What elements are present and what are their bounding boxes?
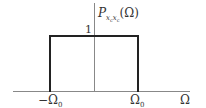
pulse-left-edge — [49, 35, 51, 92]
x-tick-neg-omega0: −Ω0 — [38, 94, 62, 108]
y-label-p: P — [98, 6, 106, 20]
x-neg-omega: −Ω — [38, 93, 58, 107]
pulse-right-edge — [137, 35, 139, 92]
x-pos-sub: 0 — [140, 101, 144, 108]
x-tick-pos-omega0: Ω0 — [130, 94, 144, 108]
y-tick-one: 1 — [85, 24, 92, 35]
x-pos-omega: Ω — [130, 93, 140, 107]
x-axis — [13, 91, 190, 92]
y-label-arg: (Ω) — [120, 6, 139, 20]
y-axis-label: Pxcxc(Ω) — [98, 7, 139, 23]
pulse-top-edge — [49, 35, 139, 37]
y-axis — [94, 3, 95, 92]
x-neg-sub: 0 — [58, 101, 62, 108]
x-axis-label: Ω — [180, 94, 190, 106]
